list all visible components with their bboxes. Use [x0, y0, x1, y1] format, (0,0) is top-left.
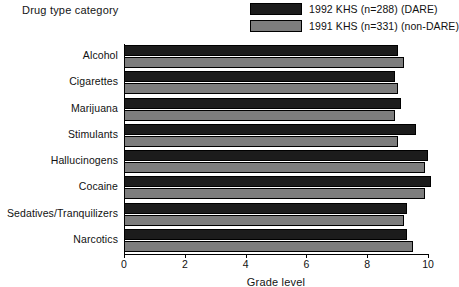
- bar-group: Alcohol: [124, 45, 428, 71]
- legend-swatch-non-dare: [250, 20, 302, 32]
- category-label: Cigarettes: [69, 75, 118, 87]
- bar-non-dare: [124, 188, 425, 199]
- bar-dare: [124, 203, 407, 214]
- bar-group: Sedatives/Tranquilizers: [124, 203, 428, 229]
- bar-group: Cocaine: [124, 176, 428, 202]
- category-label: Stimulants: [68, 128, 118, 140]
- bar-group: Marijuana: [124, 98, 428, 124]
- x-tick-label: 0: [121, 258, 127, 270]
- x-tick-label: 8: [364, 258, 370, 270]
- legend-label-dare: 1992 KHS (n=288) (DARE): [309, 3, 438, 15]
- y-axis-title: Drug type category: [22, 4, 119, 16]
- bar-non-dare: [124, 136, 398, 147]
- category-label: Alcohol: [83, 49, 118, 61]
- bar-group: Cigarettes: [124, 71, 428, 97]
- chart-legend: 1992 KHS (n=288) (DARE) 1991 KHS (n=331)…: [250, 2, 459, 32]
- bar-non-dare: [124, 215, 404, 226]
- bar-dare: [124, 229, 407, 240]
- category-label: Sedatives/Tranquilizers: [7, 207, 118, 219]
- category-label: Hallucinogens: [51, 154, 118, 166]
- bar-dare: [124, 71, 395, 82]
- bar-non-dare: [124, 57, 404, 68]
- plot-area: AlcoholCigarettesMarijuanaStimulantsHall…: [124, 44, 428, 254]
- x-axis-title: Grade level: [124, 276, 428, 287]
- bar-non-dare: [124, 110, 395, 121]
- bar-group: Stimulants: [124, 124, 428, 150]
- bar-group: Narcotics: [124, 229, 428, 255]
- legend-item-dare: 1992 KHS (n=288) (DARE): [250, 2, 459, 15]
- x-tick-label: 6: [303, 258, 309, 270]
- category-label: Marijuana: [71, 102, 118, 114]
- bar-dare: [124, 45, 398, 56]
- legend-label-non-dare: 1991 KHS (n=331) (non-DARE): [309, 20, 459, 32]
- category-label: Narcotics: [73, 233, 118, 245]
- bar-dare: [124, 124, 416, 135]
- bar-dare: [124, 98, 401, 109]
- x-tick-label: 2: [182, 258, 188, 270]
- bar-dare: [124, 150, 428, 161]
- bar-non-dare: [124, 241, 413, 252]
- legend-item-non-dare: 1991 KHS (n=331) (non-DARE): [250, 19, 459, 32]
- bar-non-dare: [124, 162, 425, 173]
- bar-non-dare: [124, 83, 398, 94]
- legend-swatch-dare: [250, 3, 302, 15]
- x-tick-label: 4: [243, 258, 249, 270]
- bar-dare: [124, 176, 431, 187]
- x-tick-label: 10: [422, 258, 434, 270]
- bar-group: Hallucinogens: [124, 150, 428, 176]
- category-label: Cocaine: [79, 180, 118, 192]
